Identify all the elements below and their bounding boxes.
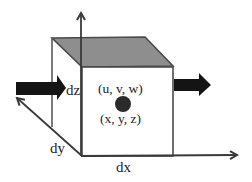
velocity-label: (u, v, w)	[98, 82, 143, 96]
dz-label: dz	[66, 83, 80, 98]
center-point-dot	[115, 96, 131, 112]
cube-top-face	[52, 37, 173, 67]
x-axis-arrow	[81, 155, 237, 156]
inflow-arrow	[16, 75, 66, 100]
outflow-arrow	[174, 73, 211, 96]
dx-label: dx	[116, 160, 131, 175]
control-volume-diagram: dz dy dx (u, v, w) (x, y, z)	[0, 0, 252, 182]
position-label: (x, y, z)	[100, 112, 141, 126]
dy-label: dy	[50, 141, 65, 156]
